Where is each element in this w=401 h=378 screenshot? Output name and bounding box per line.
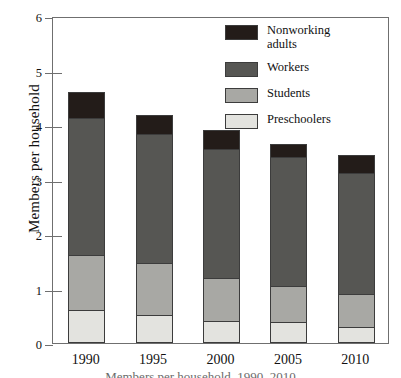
bar-segment-students[interactable] [338, 294, 375, 328]
bar-segment-students[interactable] [270, 286, 307, 324]
bar-segment-students[interactable] [136, 263, 173, 316]
bar-segment-preschoolers[interactable] [68, 310, 105, 343]
legend-item-students[interactable]: Students [225, 87, 331, 103]
bar-segment-nonworking-adults[interactable] [68, 92, 105, 119]
bar-2000[interactable] [203, 130, 240, 343]
y-tick-label: 5 [36, 66, 42, 79]
legend-item-preschoolers[interactable]: Preschoolers [225, 113, 331, 129]
y-tick-label: 0 [36, 339, 42, 352]
bar-1990[interactable] [68, 92, 105, 343]
bar-segment-nonworking-adults[interactable] [136, 115, 173, 136]
bar-2010[interactable] [338, 155, 375, 343]
bar-segment-workers[interactable] [270, 157, 307, 287]
y-tick-label: 2 [36, 230, 42, 243]
bar-segment-workers[interactable] [338, 173, 375, 295]
figure-caption: Members per household, 1990–2010 [0, 370, 401, 378]
legend-swatch-icon [225, 62, 258, 77]
legend-label: Preschoolers [267, 113, 331, 127]
y-tick-mark [45, 345, 53, 346]
legend-swatch-icon [225, 114, 258, 129]
bar-segment-preschoolers[interactable] [203, 321, 240, 343]
y-tick-mark [45, 73, 53, 74]
legend-swatch-icon [225, 88, 258, 103]
y-tick-label: 6 [36, 12, 42, 25]
chart-legend: Nonworking adultsWorkersStudentsPreschoo… [225, 24, 331, 139]
y-tick-mark-inner [53, 182, 62, 183]
y-tick-mark [45, 127, 53, 128]
bar-segment-students[interactable] [68, 255, 105, 311]
bar-2005[interactable] [270, 144, 307, 343]
bar-segment-workers[interactable] [136, 134, 173, 264]
y-tick-mark [45, 236, 53, 237]
bar-segment-preschoolers[interactable] [338, 327, 375, 343]
x-tick-label-2010: 2010 [315, 352, 395, 368]
y-tick-mark-inner [53, 73, 62, 74]
legend-item-nonworking-adults[interactable]: Nonworking adults [225, 24, 331, 51]
bar-segment-workers[interactable] [203, 149, 240, 279]
bar-segment-nonworking-adults[interactable] [338, 155, 375, 174]
legend-swatch-icon [225, 25, 258, 40]
y-tick-mark-inner [53, 127, 62, 128]
bar-segment-preschoolers[interactable] [270, 322, 307, 343]
legend-label: Workers [267, 61, 309, 75]
legend-label: Students [267, 87, 310, 101]
y-tick-mark [45, 291, 53, 292]
bar-segment-students[interactable] [203, 278, 240, 322]
y-tick-mark-inner [53, 291, 62, 292]
y-tick-label: 4 [36, 121, 42, 134]
y-tick-mark-inner [53, 236, 62, 237]
plot-area: 0123456 [52, 17, 389, 344]
legend-item-workers[interactable]: Workers [225, 61, 331, 77]
bar-segment-nonworking-adults[interactable] [270, 144, 307, 158]
y-tick-label: 3 [36, 175, 42, 188]
bar-segment-workers[interactable] [68, 118, 105, 256]
y-tick-mark [45, 18, 53, 19]
legend-label: Nonworking adults [267, 24, 330, 51]
bar-1995[interactable] [136, 115, 173, 343]
figure-caption-text: Members per household, 1990–2010 [0, 370, 401, 378]
y-tick-label: 1 [36, 284, 42, 297]
stacked-bar-chart-figure: Members per household 0123456 1990199520… [0, 0, 401, 378]
y-tick-mark [45, 182, 53, 183]
bar-segment-preschoolers[interactable] [136, 315, 173, 343]
